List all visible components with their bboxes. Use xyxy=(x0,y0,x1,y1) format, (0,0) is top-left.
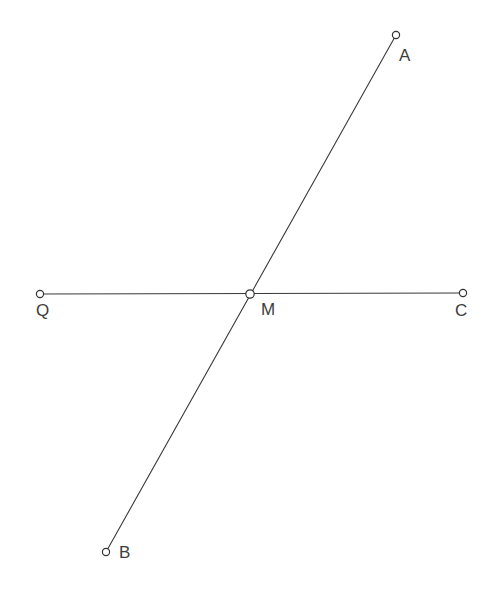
vertex-label-C: C xyxy=(455,302,467,319)
diagram-canvas: A B C Q M xyxy=(0,0,496,598)
vertex-label-M: M xyxy=(261,301,275,318)
geometry-svg xyxy=(0,0,496,598)
vertex-point-B[interactable] xyxy=(102,548,109,555)
vertex-label-A: A xyxy=(399,47,411,64)
vertex-label-B: B xyxy=(119,544,131,561)
vertex-point-Q[interactable] xyxy=(36,290,43,297)
vertex-point-A[interactable] xyxy=(392,31,399,38)
vertex-point-C[interactable] xyxy=(459,289,466,296)
vertex-point-M[interactable] xyxy=(246,290,254,298)
vertex-label-Q: Q xyxy=(36,302,49,319)
